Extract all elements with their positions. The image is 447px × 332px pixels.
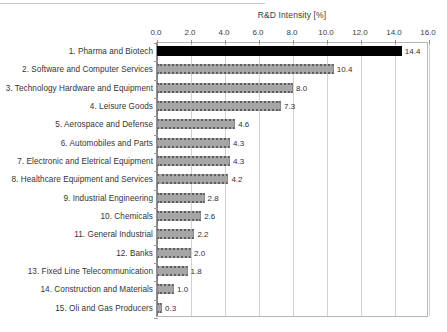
bar-value-label: 2.2 xyxy=(197,230,208,239)
bar xyxy=(157,174,228,184)
bar-row: 12. Banks2.0 xyxy=(0,244,447,262)
bar-container xyxy=(157,229,194,239)
bar xyxy=(157,193,205,203)
bar-value-label: 1.0 xyxy=(177,285,188,294)
bar-container xyxy=(157,138,230,148)
bar-value-label: 10.4 xyxy=(337,65,353,74)
y-tick-mark xyxy=(154,318,158,319)
bar-container xyxy=(157,303,162,313)
category-label: 13. Fixed Line Telecommunication xyxy=(28,267,153,276)
bar-value-label: 4.3 xyxy=(233,138,244,147)
bar xyxy=(157,266,188,276)
x-tick-label: 12.0 xyxy=(352,28,368,37)
bar-row: 7. Electronic and Eletrical Equipment4.3 xyxy=(0,152,447,170)
category-label: 8. Healthcare Equipment and Services xyxy=(11,175,153,184)
x-axis-tick-labels: 0.02.04.06.08.010.012.014.016.0 xyxy=(0,28,447,40)
bar-row: 4. Leisure Goods7.3 xyxy=(0,97,447,115)
bar-container xyxy=(157,156,230,166)
bar xyxy=(157,83,293,93)
bar-container xyxy=(157,64,334,74)
bar xyxy=(157,156,230,166)
bar-container xyxy=(157,284,174,294)
bar-row: 1. Pharma and Biotech14.4 xyxy=(0,42,447,60)
bar-row: 15. Oli and Gas Producers0.3 xyxy=(0,299,447,317)
bar xyxy=(157,119,235,129)
bar-container xyxy=(157,266,188,276)
category-label: 11. General Industrial xyxy=(74,230,153,239)
bar-value-label: 0.3 xyxy=(165,303,176,312)
bar xyxy=(157,101,281,111)
x-tick-label: 8.0 xyxy=(286,28,297,37)
bar-highlighted xyxy=(157,46,402,56)
bar xyxy=(157,64,334,74)
x-tick-label: 4.0 xyxy=(218,28,229,37)
category-label: 5. Aerospace and Defense xyxy=(55,120,153,129)
x-tick-label: 16.0 xyxy=(420,28,436,37)
bar-row: 5. Aerospace and Defense4.6 xyxy=(0,115,447,133)
category-label: 1. Pharma and Biotech xyxy=(69,47,153,56)
category-label: 9. Industrial Engineering xyxy=(63,193,153,202)
category-label: 4. Leisure Goods xyxy=(90,102,153,111)
bar-row: 3. Technology Hardware and Equipment8.0 xyxy=(0,79,447,97)
bar-container xyxy=(157,46,402,56)
bar-value-label: 4.6 xyxy=(238,120,249,129)
bar-container xyxy=(157,119,235,129)
bar xyxy=(157,138,230,148)
rd-intensity-bar-chart: R&D Intensity [%] 0.02.04.06.08.010.012.… xyxy=(0,0,447,332)
bar-row: 9. Industrial Engineering2.8 xyxy=(0,189,447,207)
bar-row: 10. Chemicals2.6 xyxy=(0,207,447,225)
bar xyxy=(157,248,191,258)
x-tick-label: 10.0 xyxy=(318,28,334,37)
bar-value-label: 2.8 xyxy=(208,193,219,202)
bar-container xyxy=(157,101,281,111)
bar-value-label: 4.3 xyxy=(233,157,244,166)
bar xyxy=(157,211,201,221)
bar-row: 13. Fixed Line Telecommunication1.8 xyxy=(0,262,447,280)
bar-row: 14. Construction and Materials1.0 xyxy=(0,280,447,298)
category-label: 3. Technology Hardware and Equipment xyxy=(6,83,153,92)
bar-value-label: 1.8 xyxy=(191,267,202,276)
bar-container xyxy=(157,83,293,93)
x-tick-label: 6.0 xyxy=(252,28,263,37)
x-tick-label: 0.0 xyxy=(150,28,161,37)
category-label: 12. Banks xyxy=(116,248,153,257)
category-label: 2. Software and Computer Services xyxy=(22,65,153,74)
bar-value-label: 2.0 xyxy=(194,248,205,257)
bar-value-label: 8.0 xyxy=(296,83,307,92)
category-label: 7. Electronic and Eletrical Equipment xyxy=(17,157,153,166)
bar-container xyxy=(157,211,201,221)
bar-row: 6. Automobiles and Parts4.3 xyxy=(0,134,447,152)
bar-row: 8. Healthcare Equipment and Services4.2 xyxy=(0,170,447,188)
bar-container xyxy=(157,174,228,184)
category-label: 10. Chemicals xyxy=(100,212,153,221)
top-divider xyxy=(0,3,265,4)
x-tick-label: 14.0 xyxy=(386,28,402,37)
category-label: 15. Oli and Gas Producers xyxy=(55,303,153,312)
bar-row: 11. General Industrial2.2 xyxy=(0,225,447,243)
chart-title: R&D Intensity [%] xyxy=(156,10,428,20)
bar-value-label: 4.2 xyxy=(231,175,242,184)
bar xyxy=(157,229,194,239)
category-label: 6. Automobiles and Parts xyxy=(61,138,153,147)
bar-value-label: 7.3 xyxy=(284,102,295,111)
bar-container xyxy=(157,248,191,258)
bar-value-label: 14.4 xyxy=(405,47,421,56)
bar-container xyxy=(157,193,205,203)
bar xyxy=(157,284,174,294)
bar xyxy=(157,303,162,313)
bar-value-label: 2.6 xyxy=(204,212,215,221)
category-label: 14. Construction and Materials xyxy=(40,285,153,294)
x-tick-label: 2.0 xyxy=(184,28,195,37)
bar-row: 2. Software and Computer Services10.4 xyxy=(0,60,447,78)
